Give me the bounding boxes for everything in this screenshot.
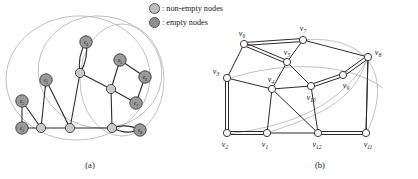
panel-a-node-circle-n4 [106,84,115,93]
panel-a-svg: e1e2e3e4e5e6e7e8 [0,0,200,179]
panel-b-node-sub-v10: 10 [310,97,316,103]
panel-a-node-e4: e4 [80,36,92,48]
caption-panel-b: (b) [290,160,350,170]
panel-a-node-n4 [106,84,115,93]
panel-b-svg: v1v2v3v4v5v6v7v8v9v10v11v12 [215,0,418,179]
panel-b-node-label-v3: v3 [213,67,220,77]
figure-container: : non-empty nodes : empty nodes e1e2e3e4… [0,0,418,179]
panel-b-node-v3 [223,74,230,81]
panel-b-node-v10 [307,82,314,89]
panel-b-node-v11 [362,129,369,136]
panel-a-node-sub-e7: 7 [136,104,138,108]
panel-a-node-sub-e5: 5 [120,61,122,65]
panel-b-edge-v8-v9 [342,56,367,74]
panel-b-edge-v6-v5 [245,43,288,61]
panel-b-edge-v7-v8 [303,40,368,57]
panel-b-graph: v1v2v3v4v5v6v7v8v9v10v11v12 [215,0,418,179]
panel-b-node-v12 [314,129,321,136]
panel-a-node-circle-n2 [65,123,74,132]
panel-b-edge-v9-v10 [311,74,343,85]
caption-panel-a: (a) [60,160,120,170]
panel-a-node-e3: e3 [40,74,52,86]
panel-b-node-sub-v4: 4 [271,79,274,85]
panel-a-edge-n3-n4 [80,73,111,89]
panel-a-node-sub-e3: 3 [46,81,48,85]
panel-a-node-n3 [75,68,84,77]
panel-b-node-sub-v11: 11 [367,144,372,150]
panel-b-node-sub-v2: 2 [225,144,228,150]
panel-b-edge-v4-v10 [272,86,311,89]
panel-b-node-sub-v8: 8 [378,52,381,58]
panel-a-node-sub-e8: 8 [140,131,142,135]
panel-b-node-label-v6: v6 [239,29,246,39]
panel-b-node-label-v4: v4 [268,75,275,85]
panel-b-edge-v4-v5 [272,62,287,89]
panel-b-node-v8 [364,53,371,60]
panel-b-node-v4 [268,85,275,92]
panel-b-node-v5 [283,58,290,65]
panel-a-node-n5 [107,123,116,132]
panel-b-node-v7 [299,36,306,43]
panel-a-node-sub-e4: 4 [86,43,88,47]
panel-a-edge-n4-n5 [111,89,112,128]
panel-a-node-circle-n1 [36,123,45,132]
panel-a-edge-n2-n3 [70,73,80,128]
panel-a-node-e8: e8 [134,124,146,136]
panel-b-edge-v9-v10 [311,76,343,87]
panel-b-edge-v6-v5 [243,45,286,63]
panel-b-node-sub-v3: 3 [215,71,219,77]
panel-a-node-n1 [36,123,45,132]
panel-a-edge-e3-n1 [41,80,46,128]
panel-b-edge-v3-v6 [227,44,244,78]
panel-b-node-label-v9: v9 [343,81,350,91]
panel-b-node-label-v2: v2 [222,140,229,150]
panel-b-edge-v3-v4 [227,78,272,89]
panel-a-node-sub-e1: 1 [22,129,24,133]
panel-a-node-e1: e1 [16,122,28,134]
panel-b-node-sub-v9: 9 [346,85,349,91]
panel-b-node-label-v8: v8 [375,48,382,58]
panel-b-node-label-v10: v10 [306,93,315,103]
panel-b-edge-v11-v8 [366,57,368,133]
panel-a-node-circle-n5 [107,123,116,132]
panel-b-edge-v8-v9 [344,58,369,76]
panel-a-graph: e1e2e3e4e5e6e7e8 [0,0,200,179]
panel-b-node-sub-v7: 7 [303,28,306,34]
panel-a-node-e2: e2 [16,95,28,107]
panel-a-edge-e3-n2 [46,80,70,128]
panel-b-node-label-v1: v1 [262,140,269,150]
panel-b-node-label-v12: v12 [312,140,321,150]
panel-a-node-e5: e5 [114,54,126,66]
panel-b-node-label-v11: v11 [364,140,373,150]
panel-a-node-circle-n3 [75,68,84,77]
panel-a-node-e6: e6 [139,71,151,83]
panel-b-node-sub-v1: 1 [265,144,268,150]
panel-b-node-sub-v5: 5 [287,52,290,58]
panel-b-node-v1 [263,129,270,136]
panel-b-node-label-v5: v5 [284,48,291,58]
panel-a-node-sub-e6: 6 [145,78,147,82]
panel-b-node-label-v7: v7 [300,24,307,34]
panel-a-node-sub-e2: 2 [22,102,24,106]
panel-a-node-e7: e7 [130,97,142,109]
panel-b-node-group [223,36,371,136]
panel-b-edge-v10-v12 [311,86,318,133]
panel-b-edge-v5-v10 [287,62,311,86]
panel-b-node-sub-v6: 6 [242,33,245,39]
panel-b-node-sub-v12: 12 [316,144,322,150]
panel-b-node-v9 [339,71,346,78]
panel-b-node-v6 [240,40,247,47]
panel-b-curve-3 [267,58,367,133]
panel-a-node-n2 [65,123,74,132]
panel-b-node-v2 [223,129,230,136]
